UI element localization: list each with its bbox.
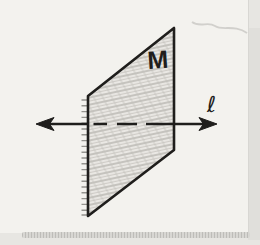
line-label: ℓ: [206, 92, 216, 117]
geometry-diagram: M ℓ: [0, 0, 260, 245]
plane-label: M: [146, 45, 169, 74]
torn-page-corner: [192, 22, 247, 33]
scanned-figure: M ℓ: [0, 0, 260, 245]
